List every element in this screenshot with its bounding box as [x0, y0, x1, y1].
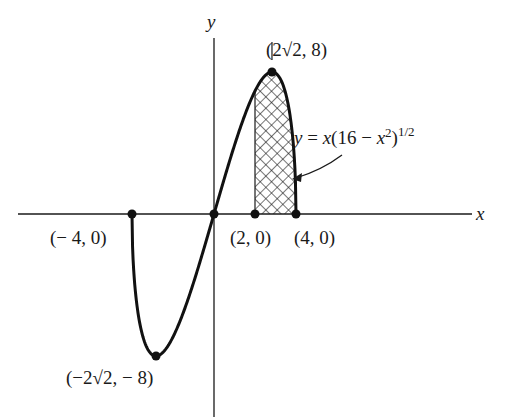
data-point-1: [210, 210, 219, 219]
eq-eq: =: [302, 127, 322, 148]
data-point-3: [292, 210, 301, 219]
label-2: (2, 0): [230, 227, 271, 249]
eq-exp: 1/2: [398, 124, 415, 139]
data-point-0: [128, 210, 137, 219]
label-4: (4, 0): [294, 227, 335, 249]
eq-open: (16 −: [331, 127, 377, 149]
y-axis-label: y: [205, 11, 216, 32]
data-point-2: [251, 210, 260, 219]
x-axis-label: x: [475, 203, 485, 224]
data-point-4: [267, 68, 276, 77]
label-min: (−2√2, − 8): [66, 367, 153, 389]
equation-label: y = x(16 − x2)1/2: [292, 124, 415, 149]
annotation-arrow: [296, 155, 342, 178]
data-point-5: [152, 352, 161, 361]
label-minus4: (− 4, 0): [50, 227, 107, 249]
shaded-region: [255, 72, 296, 214]
label-peak: (2√2, 8): [266, 39, 327, 61]
chart: x y (2√2, 8) (− 4, 0) (2, 0) (4, 0) (−2√…: [0, 0, 509, 417]
eq-y: y: [292, 127, 303, 148]
